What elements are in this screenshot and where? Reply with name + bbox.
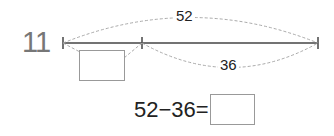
equation: 52−36= <box>134 94 255 125</box>
unknown-answer-box[interactable] <box>79 50 125 81</box>
equation-answer-box[interactable] <box>210 94 255 125</box>
part-label: 36 <box>218 56 239 73</box>
unknown-brace-right <box>124 43 142 58</box>
unknown-brace-left <box>63 43 80 52</box>
total-label: 52 <box>174 7 195 24</box>
equation-text: 52−36= <box>134 97 209 123</box>
